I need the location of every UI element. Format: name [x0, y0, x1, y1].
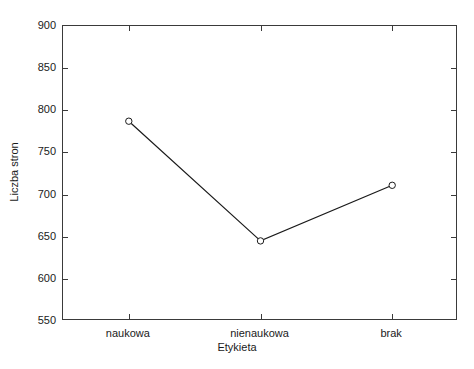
- x-axis-title: Etykieta: [0, 341, 474, 353]
- y-tick-label: 600: [6, 272, 56, 284]
- y-tick-label: 900: [6, 19, 56, 31]
- y-tick-label: 550: [6, 314, 56, 326]
- x-tick-label: brak: [380, 327, 401, 339]
- plot-area: [62, 25, 457, 320]
- x-tick-label: nienaukowa: [230, 327, 289, 339]
- series-line: [129, 121, 392, 241]
- data-point-marker: [126, 118, 132, 124]
- x-tick-label: naukowa: [106, 327, 150, 339]
- data-point-marker: [389, 182, 395, 188]
- chart-figure: Liczba stron 550600650700750800850900 na…: [0, 0, 474, 369]
- y-tick-label: 750: [6, 145, 56, 157]
- series-markers: [126, 118, 396, 244]
- y-tick-label: 650: [6, 230, 56, 242]
- data-series-layer: [63, 26, 458, 321]
- data-point-marker: [257, 238, 263, 244]
- y-tick-label: 700: [6, 188, 56, 200]
- y-tick-label: 800: [6, 103, 56, 115]
- y-tick-label: 850: [6, 61, 56, 73]
